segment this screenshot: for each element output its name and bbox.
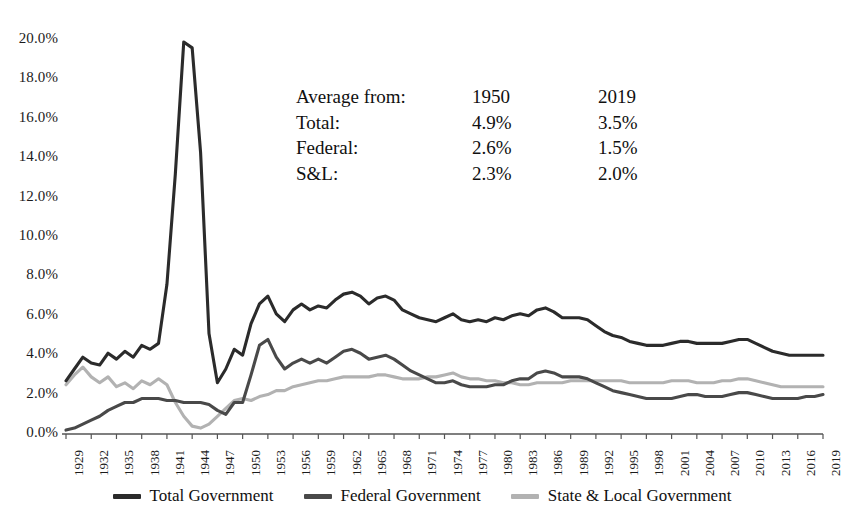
x-tick-label: 1935 bbox=[121, 450, 137, 476]
annotation-row-total: Total: 4.9% 3.5% bbox=[296, 110, 696, 136]
chart-container: 0.0%2.0%4.0%6.0%8.0%10.0%12.0%14.0%16.0%… bbox=[0, 0, 844, 524]
x-tick-label: 1950 bbox=[248, 450, 264, 476]
annotation-total-1950: 4.9% bbox=[472, 110, 598, 136]
annotation-header-row: Average from: 1950 2019 bbox=[296, 84, 696, 110]
x-tick-label: 1941 bbox=[172, 450, 188, 476]
x-tick-label: 1962 bbox=[349, 450, 365, 476]
annotation-row-snl: S&L: 2.3% 2.0% bbox=[296, 161, 696, 187]
series-line-federal-government bbox=[66, 339, 823, 430]
x-tick-label: 1986 bbox=[550, 450, 566, 476]
x-tick-label: 1965 bbox=[374, 450, 390, 476]
x-tick-label: 1983 bbox=[525, 450, 541, 476]
legend-label: Total Government bbox=[150, 486, 274, 506]
annotation-federal-2019: 1.5% bbox=[598, 135, 696, 161]
annotation-row-federal: Federal: 2.6% 1.5% bbox=[296, 135, 696, 161]
annotation-snl-1950: 2.3% bbox=[472, 161, 598, 187]
legend-swatch-icon bbox=[304, 494, 332, 499]
x-tick-label: 1959 bbox=[323, 450, 339, 476]
legend-swatch-icon bbox=[511, 494, 539, 499]
x-tick-label: 1938 bbox=[147, 450, 163, 476]
plot-area bbox=[0, 0, 844, 524]
legend-label: State & Local Government bbox=[548, 486, 732, 506]
annotation-label-snl: S&L: bbox=[296, 161, 472, 187]
x-tick-label: 1995 bbox=[626, 450, 642, 476]
legend-item[interactable]: State & Local Government bbox=[511, 486, 732, 506]
annotation-federal-1950: 2.6% bbox=[472, 135, 598, 161]
x-tick-label: 2007 bbox=[727, 450, 743, 476]
x-tick-label: 1989 bbox=[576, 450, 592, 476]
annotation-header-col1: 1950 bbox=[472, 84, 598, 110]
chart-legend: Total GovernmentFederal GovernmentState … bbox=[0, 486, 844, 506]
x-tick-label: 1968 bbox=[399, 450, 415, 476]
annotation-total-2019: 3.5% bbox=[598, 110, 696, 136]
x-tick-label: 1992 bbox=[601, 450, 617, 476]
x-tick-label: 1956 bbox=[298, 450, 314, 476]
x-tick-label: 2010 bbox=[752, 450, 768, 476]
annotation-label-federal: Federal: bbox=[296, 135, 472, 161]
annotation-label-total: Total: bbox=[296, 110, 472, 136]
x-tick-label: 1932 bbox=[96, 450, 112, 476]
x-tick-label: 1971 bbox=[424, 450, 440, 476]
legend-label: Federal Government bbox=[341, 486, 481, 506]
x-tick-label: 1947 bbox=[222, 450, 238, 476]
x-tick-label: 1974 bbox=[450, 450, 466, 476]
annotation-header-label: Average from: bbox=[296, 84, 472, 110]
legend-item[interactable]: Federal Government bbox=[304, 486, 481, 506]
x-tick-label: 2004 bbox=[702, 450, 718, 476]
x-tick-label: 2013 bbox=[778, 450, 794, 476]
legend-swatch-icon bbox=[113, 494, 141, 499]
x-tick-label: 2019 bbox=[828, 450, 844, 476]
legend-item[interactable]: Total Government bbox=[113, 486, 274, 506]
x-tick-label: 1998 bbox=[651, 450, 667, 476]
x-tick-label: 1980 bbox=[500, 450, 516, 476]
averages-annotation-table: Average from: 1950 2019 Total: 4.9% 3.5%… bbox=[296, 84, 696, 186]
x-tick-label: 1953 bbox=[273, 450, 289, 476]
annotation-snl-2019: 2.0% bbox=[598, 161, 696, 187]
x-tick-label: 1977 bbox=[475, 450, 491, 476]
x-tick-label: 1929 bbox=[71, 450, 87, 476]
x-tick-label: 2016 bbox=[803, 450, 819, 476]
annotation-header-col2: 2019 bbox=[598, 84, 696, 110]
x-tick-label: 1944 bbox=[197, 450, 213, 476]
x-tick-label: 2001 bbox=[677, 450, 693, 476]
